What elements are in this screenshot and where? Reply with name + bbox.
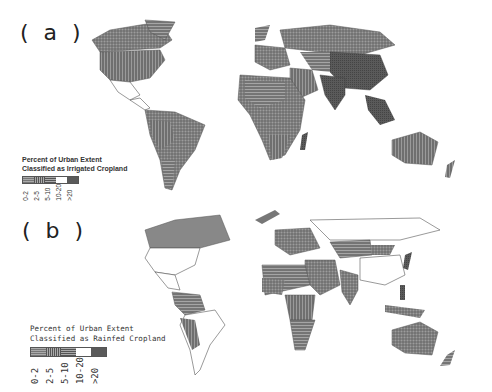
region-canada bbox=[145, 215, 230, 248]
swatch-2-5 bbox=[34, 177, 45, 183]
tick-gt-20: >20 bbox=[90, 357, 105, 386]
legend-title-line2: Classified as Irrigated Cropland bbox=[22, 164, 127, 173]
swatch-gt-20 bbox=[91, 348, 106, 356]
region-australia bbox=[392, 322, 438, 355]
region-greenland-ice bbox=[255, 210, 280, 224]
region-usa bbox=[100, 50, 165, 82]
swatch-0-2 bbox=[23, 177, 34, 183]
region-india bbox=[320, 75, 345, 110]
region-new-zealand bbox=[445, 160, 455, 178]
region-mexico bbox=[110, 80, 140, 100]
region-australia bbox=[392, 132, 438, 165]
tick-10-20: 10-20 bbox=[75, 357, 90, 386]
panel-b-rainfed-cropland-map: ( b ) Percent of Urban Extent Cla bbox=[0, 200, 492, 392]
tick-5-10: 5-10 bbox=[60, 357, 75, 386]
region-central-africa bbox=[285, 295, 315, 320]
region-southeast-asia bbox=[365, 95, 395, 125]
region-scandinavia bbox=[255, 25, 270, 42]
region-japan bbox=[403, 252, 412, 270]
region-china bbox=[360, 255, 405, 285]
legend-title-line1: Percent of Urban Extent bbox=[30, 324, 165, 334]
region-indonesia bbox=[385, 305, 425, 318]
swatch-0-2 bbox=[31, 348, 46, 356]
region-madagascar bbox=[300, 132, 308, 150]
region-west-africa bbox=[262, 278, 285, 295]
tick-0-2: 0-2 bbox=[30, 357, 45, 386]
panel-a-irrigated-cropland-map: ( a ) Percent of Urban Extent Classified… bbox=[0, 0, 492, 200]
region-usa bbox=[145, 248, 200, 275]
swatch-gt-20 bbox=[67, 177, 78, 183]
swatch-5-10 bbox=[45, 177, 56, 183]
region-central-asia bbox=[300, 52, 330, 72]
swatch-10-20 bbox=[76, 348, 91, 356]
region-kazakhstan bbox=[330, 240, 372, 258]
legend-irrigated: Percent of Urban Extent Classified as Ir… bbox=[22, 155, 127, 203]
region-russia bbox=[310, 218, 440, 240]
region-middle-east bbox=[305, 260, 340, 295]
legend-title-line1: Percent of Urban Extent bbox=[22, 155, 127, 164]
legend-color-bar bbox=[22, 176, 79, 184]
region-russia bbox=[280, 25, 395, 55]
swatch-10-20 bbox=[56, 177, 67, 183]
legend-rainfed: Percent of Urban Extent Classified as Ra… bbox=[30, 324, 165, 386]
region-europe bbox=[255, 45, 290, 70]
region-india bbox=[340, 270, 358, 305]
swatch-5-10 bbox=[61, 348, 76, 356]
region-south-america-north bbox=[172, 292, 205, 315]
tick-2-5: 2-5 bbox=[45, 357, 60, 386]
legend-ticks: 0-2 2-5 5-10 10-20 >20 bbox=[30, 357, 165, 386]
region-philippines bbox=[400, 285, 405, 300]
region-mongolia bbox=[370, 245, 395, 255]
legend-color-bar bbox=[30, 347, 107, 357]
region-new-zealand bbox=[440, 350, 455, 366]
region-southern-africa bbox=[290, 320, 315, 350]
region-europe bbox=[275, 228, 320, 255]
swatch-2-5 bbox=[46, 348, 61, 356]
region-central-america bbox=[130, 98, 150, 110]
legend-title-line2: Classified as Rainfed Cropland bbox=[30, 334, 165, 344]
